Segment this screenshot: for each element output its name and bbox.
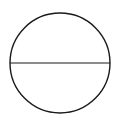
circle-diagram — [0, 0, 117, 119]
